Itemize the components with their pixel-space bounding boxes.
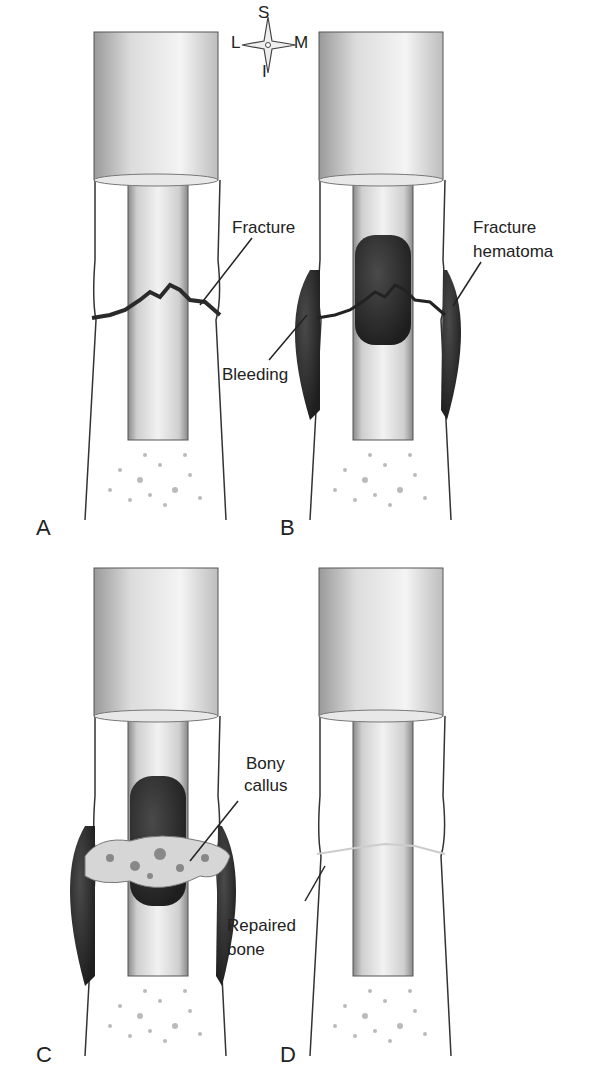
callout-repaired-bone-line1: Repaired	[227, 916, 296, 936]
callout-bleeding: Bleeding	[222, 365, 288, 385]
panel-b-bone	[269, 32, 481, 520]
compass-star-icon	[238, 15, 298, 75]
callout-repaired-bone-line2: bone	[227, 940, 265, 960]
fracture-repair-illustration	[0, 0, 609, 1072]
panel-label-a: A	[36, 515, 51, 541]
callout-fracture-hematoma-line2: hematoma	[473, 242, 553, 262]
callout-bony-callus-line1: Bony	[246, 754, 285, 774]
panel-d-bone	[305, 568, 451, 1056]
orientation-compass: S L M I	[240, 0, 330, 90]
panel-c-bone	[70, 568, 238, 1056]
panel-label-c: C	[36, 1042, 52, 1068]
panel-a-bone	[85, 32, 252, 520]
callout-fracture: Fracture	[232, 218, 295, 238]
callout-fracture-hematoma-line1: Fracture	[473, 218, 536, 238]
panel-label-d: D	[280, 1042, 296, 1068]
panel-label-b: B	[280, 515, 295, 541]
callout-bony-callus-line2: callus	[244, 776, 287, 796]
